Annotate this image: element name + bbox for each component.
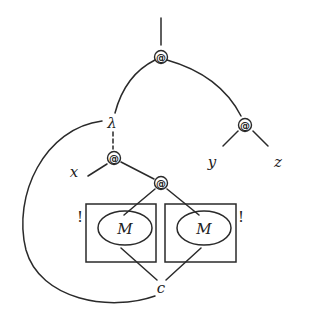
var-x-label: x (70, 163, 79, 181)
contraction-c-label: c (157, 279, 166, 297)
edge-right-app-to-z (253, 131, 268, 146)
edge-right-app-to-y (223, 131, 238, 146)
lambda-graph-diagram: @ @ @ @ λ x y z c M M ! ! (0, 0, 325, 324)
svg-text:@: @ (156, 178, 166, 189)
edge-inner-app-to-lower-app (121, 162, 154, 179)
edge-root-to-lambda (115, 60, 155, 113)
lower-app-node: @ (155, 177, 168, 190)
right-m-label: M (195, 220, 212, 238)
edge-root-to-right-app (167, 60, 241, 116)
svg-text:@: @ (156, 52, 166, 63)
var-y-label: y (207, 153, 217, 171)
root-app-node: @ (155, 51, 168, 64)
right-bang-label: ! (238, 208, 244, 226)
inner-app-node: @ (108, 152, 121, 165)
right-app-node: @ (239, 119, 252, 132)
edge-lower-app-to-right-box (167, 189, 199, 215)
edge-inner-app-to-x (88, 164, 107, 176)
edge-left-box-to-c (121, 248, 157, 280)
left-bang-label: ! (77, 208, 83, 226)
edge-right-box-to-c (166, 248, 201, 280)
left-m-label: M (116, 220, 133, 238)
svg-text:@: @ (240, 120, 250, 131)
lambda-node: λ (106, 114, 117, 132)
var-z-label: z (273, 153, 282, 171)
svg-text:@: @ (109, 153, 119, 164)
